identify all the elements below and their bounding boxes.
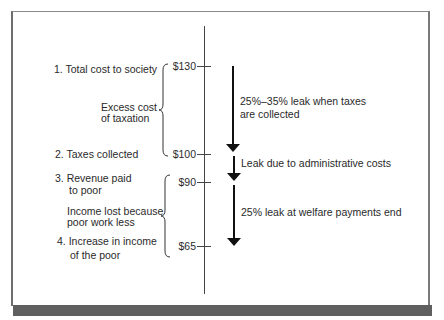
label-revenue-1: 3. Revenue paid bbox=[55, 172, 131, 184]
value-65: $65 bbox=[162, 240, 196, 252]
arrow-down-icon bbox=[228, 156, 240, 182]
value-130: $130 bbox=[162, 60, 196, 72]
tick-65 bbox=[197, 246, 211, 247]
label-taxes-collected: 2. Taxes collected bbox=[55, 148, 138, 160]
label-income-lost-2: poor work less bbox=[67, 216, 135, 228]
label-increase-2: of the poor bbox=[70, 249, 120, 261]
leak-collection-2: are collected bbox=[240, 108, 300, 120]
arrow-down-icon bbox=[228, 185, 240, 247]
arrow-down-icon bbox=[227, 66, 239, 154]
leak-collection-1: 25%–35% leak when taxes bbox=[240, 95, 366, 107]
label-increase-1: 4. Increase in income bbox=[57, 235, 157, 247]
bottom-bar bbox=[13, 305, 432, 316]
tick-130 bbox=[197, 66, 211, 67]
label-total-cost: 1. Total cost to society bbox=[54, 63, 157, 75]
leak-administrative: Leak due to administrative costs bbox=[241, 157, 391, 169]
value-90: $90 bbox=[162, 176, 196, 188]
label-excess-cost-2: of taxation bbox=[101, 112, 149, 124]
leak-welfare: 25% leak at welfare payments end bbox=[241, 206, 402, 218]
brace-excess-cost bbox=[158, 62, 170, 158]
tick-100 bbox=[197, 154, 211, 155]
value-100: $100 bbox=[162, 148, 196, 160]
tick-90 bbox=[197, 182, 211, 183]
label-revenue-2: to poor bbox=[69, 184, 102, 196]
